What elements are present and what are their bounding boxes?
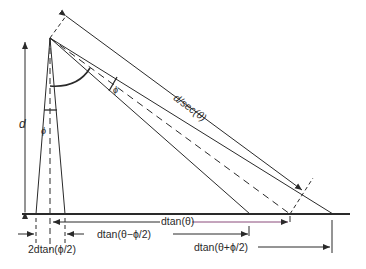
inclined-beam-angle-label: ϕ: [113, 86, 118, 95]
diagram-canvas: [0, 0, 366, 269]
vertical-beam-right-edge: [50, 38, 65, 214]
vertical-footprint-label: 2dtan(ϕ/2): [28, 244, 76, 255]
inclined-beam-center: [50, 38, 290, 214]
height-label: d: [19, 118, 26, 130]
inclined-beam-upper-edge: [50, 38, 333, 214]
center-offset-label: dtan(θ): [161, 216, 194, 227]
far-edge-label: dtan(θ+ϕ/2): [194, 242, 248, 253]
beam-geometry-diagram: d ϕ ϕ d/sec(θ) dtan(θ) dtan(θ−ϕ/2) dtan(…: [0, 0, 366, 269]
vertical-beam-angle-label: ϕ: [41, 127, 46, 136]
inclined-beam-lower-edge: [50, 38, 250, 214]
slant-range-extension-top: [50, 16, 66, 38]
near-edge-label: dtan(θ−ϕ/2): [97, 229, 151, 240]
theta-angle-arc: [50, 68, 90, 86]
